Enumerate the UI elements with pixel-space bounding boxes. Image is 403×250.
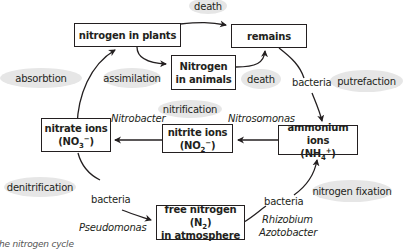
process-label: absorbtion: [15, 73, 66, 84]
box-formula: (NO2−): [180, 139, 216, 152]
label-bacteria-denitrification: bacteria: [91, 194, 130, 205]
label-nitrosomonas: Nitrosomonas: [228, 113, 295, 124]
process-label: nitrification: [163, 104, 217, 115]
box-nitrogen-in-plants: nitrogen in plants: [74, 23, 181, 47]
box-label: remains: [247, 30, 291, 43]
box-formula: (NH4+): [300, 147, 335, 160]
label-rhizobium: Rhizobium: [262, 214, 313, 225]
process-assimilation: assimilation: [103, 68, 161, 88]
box-label-line1: nitrate ions: [44, 122, 107, 135]
box-ammonium-ions: ammonium ions (NH4+): [278, 125, 358, 155]
label-bacteria-putrefaction: bacteria: [292, 77, 331, 88]
box-label-line1: Nitrogen: [180, 60, 228, 73]
process-nitrification: nitrification: [158, 100, 222, 118]
label-nitrobacter: Nitrobacter: [111, 113, 165, 124]
box-remains: remains: [231, 24, 307, 48]
box-label-line1: ammonium ions: [279, 121, 357, 147]
box-label-line1: nitrite ions: [168, 126, 228, 139]
process-label: death: [247, 74, 275, 85]
process-death-mid: death: [241, 69, 281, 89]
process-label: putrefaction: [337, 76, 396, 87]
box-label-line2: in animals: [176, 73, 232, 86]
process-label: nitrogen fixation: [312, 186, 391, 197]
process-nitrogen-fixation: nitrogen fixation: [312, 180, 392, 202]
process-label: assimilation: [103, 73, 161, 84]
process-absorbtion: absorbtion: [0, 68, 82, 88]
label-azotobacter: Azotobacter: [259, 227, 317, 238]
label-pseudomonas: Pseudomonas: [79, 222, 147, 233]
box-nitrate-ions: nitrate ions (NO3−): [41, 118, 111, 152]
box-formula: (NO3−): [58, 135, 94, 148]
process-putrefaction: putrefaction: [330, 70, 403, 92]
box-nitrite-ions: nitrite ions (NO2−): [162, 124, 233, 153]
process-label: denitrification: [7, 182, 74, 193]
box-nitrogen-in-animals: Nitrogen in animals: [171, 55, 236, 90]
process-denitrification: denitrification: [4, 177, 76, 197]
box-free-nitrogen: free nitrogen (N2) in atmosphere: [156, 205, 245, 240]
process-label: death: [194, 1, 222, 12]
label-bacteria-fixation: bacteria: [264, 196, 303, 207]
box-label: nitrogen in plants: [79, 29, 176, 42]
figure-caption: he nitrogen cycle: [0, 239, 74, 249]
box-label-line1: free nitrogen (N2): [157, 203, 244, 229]
box-label-line2: in atmosphere: [161, 229, 240, 242]
